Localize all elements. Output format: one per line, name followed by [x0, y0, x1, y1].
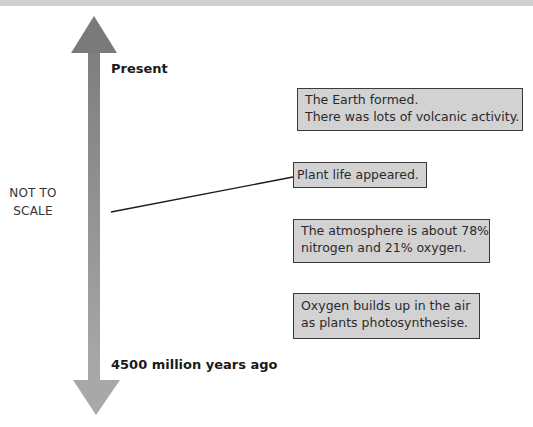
event-box-oxygen-builds: Oxygen builds up in the air as plants ph… [293, 293, 480, 339]
event-text-line2: as plants photosynthesise. [301, 314, 473, 331]
arrow-shaft [88, 50, 100, 382]
arrow-up-icon [71, 16, 117, 53]
arrow-down-icon [73, 380, 120, 415]
not-to-scale-note: NOT TO SCALE [0, 184, 66, 220]
event-text-line2: nitrogen and 21% oxygen. [301, 239, 483, 256]
event-text-line1: The Earth formed. [305, 91, 516, 108]
event-text-line2: There was lots of volcanic activity. [305, 108, 516, 125]
not-to-scale-line1: NOT TO [0, 184, 66, 202]
event-box-atmosphere: The atmosphere is about 78% nitrogen and… [293, 219, 490, 263]
not-to-scale-line2: SCALE [0, 202, 66, 220]
event-text-line1: Oxygen builds up in the air [301, 297, 473, 314]
event-box-earth-formed: The Earth formed. There was lots of volc… [297, 88, 523, 131]
event-text-line1: Plant life appeared. [297, 166, 420, 183]
present-label: Present [111, 61, 168, 76]
past-label: 4500 million years ago [111, 357, 278, 372]
event-box-plant-life: Plant life appeared. [293, 162, 427, 188]
event-text-line1: The atmosphere is about 78% [301, 222, 483, 239]
connector-line [111, 177, 293, 212]
